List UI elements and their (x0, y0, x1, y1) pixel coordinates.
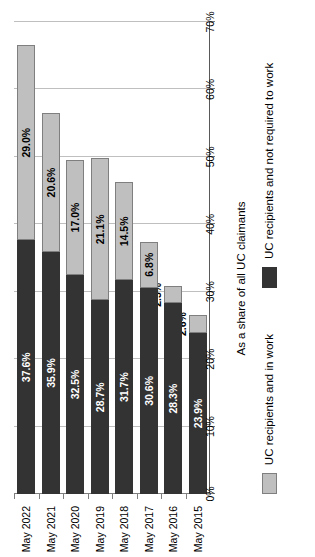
bar-row[interactable]: 32.5%17.0% (66, 160, 84, 494)
category-axis-tick-label: May 2022 (21, 506, 32, 552)
value-axis-tick-label: 30% (205, 281, 216, 302)
bar-row[interactable]: 37.6%29.0% (17, 45, 35, 494)
value-axis-tick-label: 60% (205, 79, 216, 100)
gridline (14, 88, 210, 89)
bar-segment-value-label: 28.7% (95, 382, 106, 412)
category-axis-tick (39, 494, 40, 499)
legend-swatch-icon-in-work (262, 473, 277, 494)
category-axis-tick (137, 494, 138, 499)
bar-segment-in-work[interactable]: 17.0% (66, 160, 84, 275)
bar-segment-not-required-to-work[interactable]: 37.6% (17, 240, 35, 494)
bar-segment-value-label: 30.6% (144, 376, 155, 406)
bar-segment-value-label: 20.6% (46, 168, 57, 198)
bar-segment-value-label: 37.6% (21, 352, 32, 382)
bar-row[interactable]: 31.7%14.5% (115, 183, 133, 495)
rotated-chart-wrapper: 23.9%2.6%28.3%2.5%30.6%6.8%31.7%14.5%28.… (0, 0, 315, 557)
category-axis-tick-label: May 2018 (119, 506, 130, 552)
bar-segment-not-required-to-work[interactable]: 31.7% (115, 280, 133, 494)
bar-segment-value-label: 32.5% (70, 370, 81, 400)
legend-swatch-icon-not-required-to-work (262, 267, 277, 288)
category-axis-tick-label: May 2017 (144, 506, 155, 552)
bar-segment-value-label: 28.3% (168, 384, 179, 414)
bar-segment-not-required-to-work[interactable]: 30.6% (140, 288, 158, 494)
category-axis-tick-label: May 2020 (70, 506, 81, 552)
bar-segment-value-label: 17.0% (70, 203, 81, 233)
bar-row[interactable]: 28.7%21.1% (91, 158, 109, 494)
gridline (14, 21, 210, 22)
value-axis-tick-label: 0% (205, 486, 216, 501)
chart-figure: 23.9%2.6%28.3%2.5%30.6%6.8%31.7%14.5%28.… (0, 0, 315, 557)
category-axis-tick (14, 494, 15, 499)
bar-segment-not-required-to-work[interactable]: 35.9% (42, 252, 60, 494)
legend-item-not-required-to-work[interactable]: UC recipients and not required to work (262, 63, 277, 288)
value-axis-tick-label: 40% (205, 214, 216, 235)
category-axis-tick (161, 494, 162, 499)
value-axis-title: As a share of all UC claimants (236, 0, 248, 557)
bar-segment-value-label: 23.9% (193, 399, 204, 429)
chart-legend: UC recipients and in work UC recipients … (262, 0, 277, 557)
plot-area: 23.9%2.6%28.3%2.5%30.6%6.8%31.7%14.5%28.… (14, 22, 210, 494)
bar-segment-not-required-to-work[interactable]: 32.5% (66, 275, 84, 494)
bar-segment-in-work[interactable]: 14.5% (115, 183, 133, 281)
category-axis-tick (112, 494, 113, 499)
legend-item-in-work[interactable]: UC recipients and in work (262, 334, 277, 494)
bar-segment-value-label: 14.5% (119, 217, 130, 247)
bar-segment-in-work[interactable]: 20.6% (42, 113, 60, 252)
bar-segment-value-label: 6.8% (144, 253, 155, 277)
bar-segment-in-work[interactable]: 29.0% (17, 45, 35, 241)
value-axis-tick-label: 10% (205, 416, 216, 437)
bar-segment-not-required-to-work[interactable]: 28.7% (91, 300, 109, 494)
value-axis-tick-label: 70% (205, 11, 216, 32)
bar-row[interactable]: 23.9%2.6% (189, 315, 207, 494)
value-axis-tick-label: 20% (205, 349, 216, 370)
bar-segment-value-label: 31.7% (119, 372, 130, 402)
bar-row[interactable]: 30.6%6.8% (140, 242, 158, 494)
bar-segment-in-work[interactable]: 2.5% (164, 286, 182, 303)
bar-segment-value-label: 21.1% (95, 214, 106, 244)
category-axis-tick-label: May 2016 (168, 506, 179, 552)
category-axis-tick-label: May 2015 (193, 506, 204, 552)
category-axis-tick (186, 494, 187, 499)
bar-row[interactable]: 35.9%20.6% (42, 113, 60, 494)
category-axis-tick (88, 494, 89, 499)
category-axis-tick (63, 494, 64, 499)
bar-segment-not-required-to-work[interactable]: 28.3% (164, 303, 182, 494)
legend-label-in-work: UC recipients and in work (264, 334, 276, 465)
bar-row[interactable]: 28.3%2.5% (164, 286, 182, 494)
bar-segment-in-work[interactable]: 21.1% (91, 158, 109, 300)
bar-segment-in-work[interactable]: 2.6% (189, 315, 207, 333)
bar-segment-value-label: 35.9% (46, 358, 57, 388)
bar-segment-in-work[interactable]: 6.8% (140, 242, 158, 288)
legend-label-not-required-to-work: UC recipients and not required to work (264, 63, 276, 259)
bar-segment-value-label: 29.0% (21, 128, 32, 158)
category-axis-tick-label: May 2019 (95, 506, 106, 552)
value-axis-tick-label: 50% (205, 146, 216, 167)
category-axis-tick-label: May 2021 (46, 506, 57, 552)
